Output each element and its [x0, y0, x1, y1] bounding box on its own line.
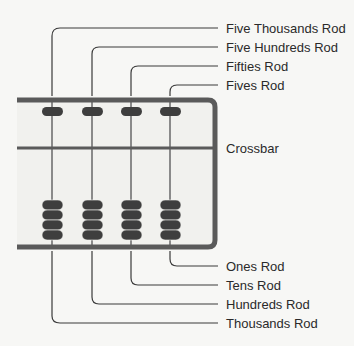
- label-fifties-rod: Fifties Rod: [226, 59, 288, 74]
- label-fives-rod: Fives Rod: [226, 78, 285, 93]
- label-five-hundreds-rod: Five Hundreds Rod: [226, 40, 338, 55]
- label-five-thousands-rod: Five Thousands Rod: [226, 21, 346, 36]
- label-hundreds-rod: Hundreds Rod: [226, 297, 310, 312]
- label-tens-rod: Tens Rod: [226, 278, 281, 293]
- label-ones-rod: Ones Rod: [226, 259, 285, 274]
- label-thousands-rod: Thousands Rod: [226, 316, 318, 331]
- label-crossbar: Crossbar: [226, 141, 279, 156]
